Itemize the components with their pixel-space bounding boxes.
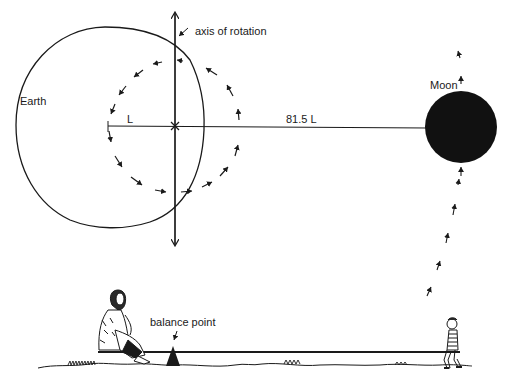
seesaw [98, 331, 460, 366]
earth-moon-barycenter-diagram: axis of rotation Earth Moon L 81.5 L bal… [0, 0, 505, 380]
grass-mid [284, 360, 300, 364]
fulcrum [166, 346, 180, 366]
ground [38, 363, 472, 368]
long-distance-label: 81.5 L [286, 114, 317, 125]
axis-of-rotation-label: axis of rotation [195, 26, 267, 37]
axis-pointer-arrow [179, 28, 188, 36]
diagram-canvas [0, 0, 505, 380]
boy-figure [444, 318, 462, 368]
axis-of-rotation [175, 13, 188, 245]
short-distance-label: L [127, 114, 133, 125]
balance-pointer-arrow [174, 331, 177, 340]
grass-left [68, 361, 95, 365]
earth-moon-line [108, 126, 428, 128]
moon [425, 91, 497, 163]
earth-label: Earth [20, 96, 46, 107]
balance-point-label: balance point [150, 317, 215, 328]
moon-label: Moon [430, 80, 458, 91]
